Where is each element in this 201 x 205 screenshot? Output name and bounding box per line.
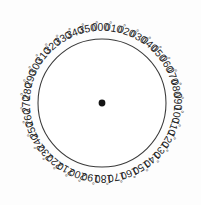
azimuth-circle-svg: 000°010°020°030°040°050°060°070°080°090°… [0, 0, 201, 205]
azimuth-circle-figure: 000°010°020°030°040°050°060°070°080°090°… [0, 0, 201, 205]
center-hub [99, 100, 106, 107]
